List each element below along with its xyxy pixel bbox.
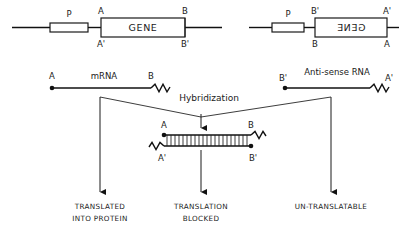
outcome-1-line2: BLOCKED bbox=[183, 214, 220, 223]
antisense-label-bottom-left: B bbox=[312, 39, 318, 49]
mrna-right-squiggle bbox=[151, 84, 170, 92]
duplex-bottom-right-dot bbox=[249, 144, 254, 149]
antisense-name-label: Anti-sense RNA bbox=[304, 67, 370, 77]
outcome-translation-blocked: TRANSLATION BLOCKED bbox=[173, 202, 228, 223]
sense-promoter-label: P bbox=[66, 9, 71, 19]
antisense-label-left: B' bbox=[279, 73, 287, 83]
hybridization-label: Hybridization bbox=[179, 93, 239, 103]
duplex-rungs bbox=[167, 135, 247, 146]
outcome-0-line1: TRANSLATED bbox=[74, 202, 126, 211]
outcome-stems bbox=[100, 97, 331, 192]
sense-construct bbox=[12, 18, 222, 37]
diagram-canvas: P A B A' B' GENE P B' A' B A GENE A mRNA… bbox=[0, 0, 403, 233]
antisense-label-top-left: B' bbox=[311, 6, 319, 16]
antisense-left-terminus-dot bbox=[283, 86, 288, 91]
antisense-right-squiggle bbox=[370, 84, 389, 92]
duplex-top-right-squiggle bbox=[251, 131, 266, 138]
outcome-translated-into-protein: TRANSLATED INTO PROTEIN bbox=[72, 202, 127, 223]
outcome-0-line2: INTO PROTEIN bbox=[72, 214, 127, 223]
duplex-label-top-left: A bbox=[161, 120, 167, 130]
mrna-label-right: B bbox=[148, 71, 154, 81]
sense-label-bottom-left: A' bbox=[97, 39, 105, 49]
sense-label-bottom-right: B' bbox=[181, 39, 189, 49]
sense-gene-label: GENE bbox=[129, 22, 158, 33]
mrna-name-label: mRNA bbox=[91, 71, 118, 81]
outcome-un-translatable: UN-TRANSLATABLE bbox=[295, 202, 368, 211]
sense-label-top-right: B bbox=[182, 6, 188, 16]
mrna-left-terminus-dot bbox=[50, 86, 55, 91]
mrna-label-left: A bbox=[49, 71, 55, 81]
duplex-top-left-dot bbox=[162, 133, 167, 138]
antisense-gene-label: GENE bbox=[337, 22, 366, 33]
antisense-rna-diagram: P A B A' B' GENE P B' A' B A GENE A mRNA… bbox=[0, 0, 403, 233]
mrna-strand bbox=[50, 84, 170, 92]
antisense-promoter-label: P bbox=[285, 9, 290, 19]
sense-promoter-box bbox=[50, 23, 88, 32]
antisense-label-bottom-right: A bbox=[384, 39, 390, 49]
duplex-label-top-right: B bbox=[248, 120, 254, 130]
sense-label-top-left: A bbox=[98, 6, 104, 16]
antisense-label-top-right: A' bbox=[383, 6, 391, 16]
rna-duplex bbox=[149, 131, 266, 149]
outcome-2-line1: UN-TRANSLATABLE bbox=[295, 202, 368, 211]
duplex-label-bottom-right: B' bbox=[249, 153, 257, 163]
antisense-rna-strand bbox=[283, 84, 389, 92]
antisense-promoter-box bbox=[272, 23, 304, 32]
outcome-1-line1: TRANSLATION bbox=[173, 202, 228, 211]
antisense-gene-label-mirror-group: GENE bbox=[337, 22, 366, 33]
duplex-label-bottom-left: A' bbox=[158, 153, 166, 163]
antisense-label-right: A' bbox=[385, 73, 393, 83]
duplex-bottom-left-squiggle bbox=[149, 142, 164, 149]
antisense-construct bbox=[249, 18, 399, 37]
